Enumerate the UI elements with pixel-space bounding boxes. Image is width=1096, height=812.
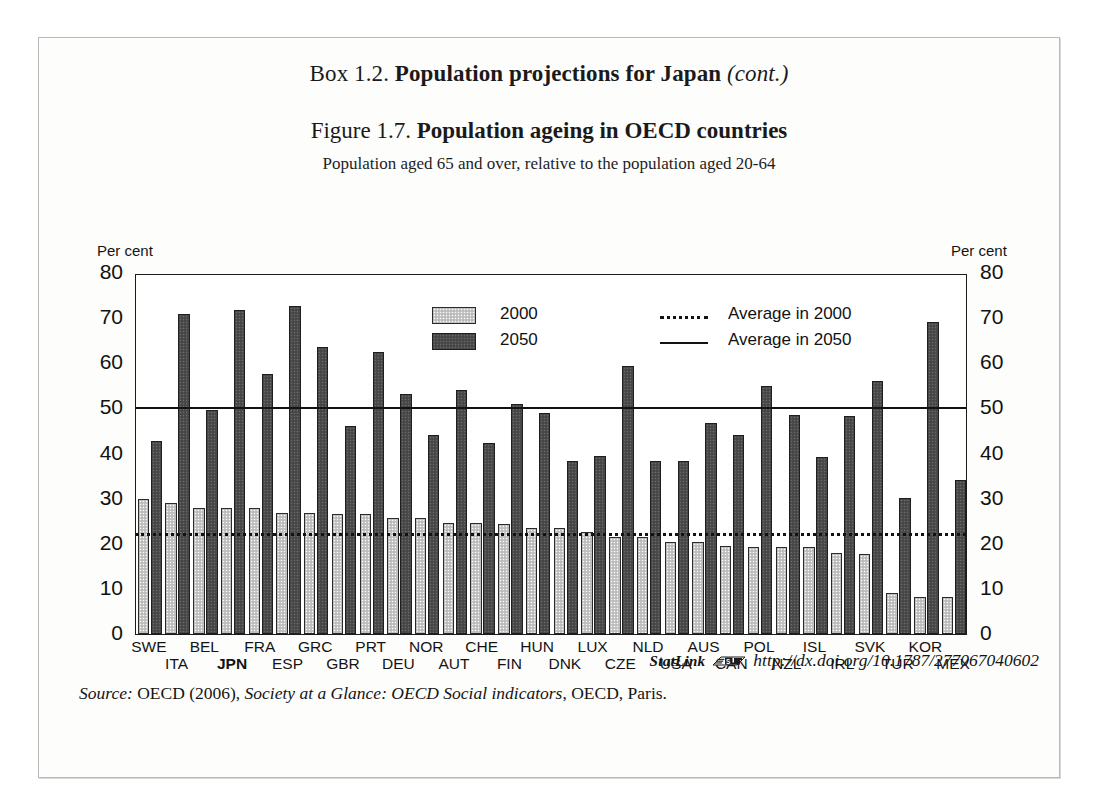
y-tick-label-right-40: 40: [980, 441, 1026, 465]
box-title-text: Population projections for Japan: [395, 61, 721, 86]
bar-2000-fin: [498, 524, 509, 634]
y-tick-label-left-80: 80: [77, 260, 123, 284]
bar-2050-bel: [206, 410, 217, 634]
bar-2050-cze: [622, 366, 633, 634]
bar-group: [885, 275, 913, 634]
bar-2000-cze: [609, 537, 620, 634]
bar-group: [691, 275, 719, 634]
bar-group: [497, 275, 525, 634]
bar-group: [191, 275, 219, 634]
y-tick-label-left-20: 20: [77, 531, 123, 555]
bar-2000-bel: [193, 508, 204, 634]
bar-2050-fin: [511, 404, 522, 634]
svg-text:S: S: [726, 657, 731, 664]
bar-2000-svk: [859, 554, 870, 634]
bar-group: [746, 275, 774, 634]
bar-2000-nzl: [776, 547, 787, 634]
source-suffix: , OECD, Paris.: [562, 683, 667, 703]
bar-group: [718, 275, 746, 634]
bar-group: [580, 275, 608, 634]
bar-2000-gbr: [332, 514, 343, 634]
figure-label: Figure 1.7.: [311, 118, 411, 143]
figure-box: Box 1.2. Population projections for Japa…: [38, 37, 1060, 778]
bar-group: [635, 275, 663, 634]
bar-group: [302, 275, 330, 634]
y-tick-label-right-30: 30: [980, 486, 1026, 510]
bar-2050-kor: [927, 322, 938, 634]
bar-2050-nld: [650, 461, 661, 634]
bar-2050-swe: [151, 441, 162, 634]
bar-2000-swe: [138, 499, 149, 634]
bar-2000-nld: [637, 537, 648, 634]
bar-group: [275, 275, 303, 634]
bar-2050-isl: [816, 457, 827, 634]
bar-2000-fra: [249, 508, 260, 634]
bar-group: [940, 275, 968, 634]
bar-2000-usa: [665, 542, 676, 634]
bar-group: [663, 275, 691, 634]
bar-2050-fra: [262, 374, 273, 634]
bar-group: [413, 275, 441, 634]
box-cont-marker: (cont.): [727, 61, 788, 86]
bar-2050-svk: [872, 381, 883, 634]
bar-2000-dnk: [554, 528, 565, 634]
bar-2050-usa: [678, 461, 689, 634]
bar-group: [552, 275, 580, 634]
bar-group: [247, 275, 275, 634]
bar-2000-can: [720, 546, 731, 634]
source-prefix: Source:: [79, 683, 133, 703]
reference-line-average-in-2000: [136, 533, 966, 536]
bar-2000-grc: [304, 513, 315, 634]
y-tick-label-right-80: 80: [980, 260, 1026, 284]
bar-2050-jpn: [234, 310, 245, 634]
bar-group: [136, 275, 164, 634]
bar-2000-ita: [165, 503, 176, 634]
source-line: Source: OECD (2006), Society at a Glance…: [79, 683, 667, 704]
y-tick-label-right-60: 60: [980, 350, 1026, 374]
bar-2050-lux: [594, 456, 605, 634]
statlink-row: StatLink S http://dx.doi.org/10.1787/277…: [39, 650, 1061, 676]
bar-2050-aus: [705, 423, 716, 634]
figure-title: Figure 1.7. Population ageing in OECD co…: [39, 118, 1059, 144]
box-title: Box 1.2. Population projections for Japa…: [39, 61, 1059, 87]
bar-2050-esp: [289, 306, 300, 634]
bar-2000-lux: [581, 532, 592, 634]
box-label: Box 1.2.: [310, 61, 389, 86]
bar-2050-prt: [373, 352, 384, 634]
bar-2000-hun: [526, 528, 537, 634]
y-axis-unit-left: Per cent: [97, 242, 153, 259]
bar-2000-isl: [803, 547, 814, 634]
bar-2000-aus: [692, 542, 703, 634]
bar-2000-pol: [748, 547, 759, 634]
bar-group: [164, 275, 192, 634]
bar-group: [358, 275, 386, 634]
statlink-label: StatLink: [650, 653, 706, 669]
y-tick-label-right-70: 70: [980, 305, 1026, 329]
bar-group: [607, 275, 635, 634]
bar-2050-che: [483, 443, 494, 634]
y-tick-label-left-40: 40: [77, 441, 123, 465]
bar-group: [219, 275, 247, 634]
bar-group: [386, 275, 414, 634]
source-publisher: OECD (2006),: [137, 683, 240, 703]
statlink-icon: S: [712, 654, 746, 669]
bar-group: [913, 275, 941, 634]
y-tick-label-right-0: 0: [980, 621, 1026, 645]
bar-2050-aut: [456, 390, 467, 634]
y-tick-label-left-50: 50: [77, 395, 123, 419]
statlink-url[interactable]: http://dx.doi.org/10.1787/277067040602: [753, 650, 1039, 670]
bar-2000-aut: [443, 523, 454, 634]
bar-group: [857, 275, 885, 634]
bar-2050-irl: [844, 416, 855, 634]
chart-container: Per cent Per cent 01020304050607080 0102…: [39, 198, 1061, 698]
source-publication: Society at a Glance: OECD Social indicat…: [245, 683, 563, 703]
figure-subtitle: Population aged 65 and over, relative to…: [39, 154, 1059, 174]
bar-group: [330, 275, 358, 634]
y-tick-label-left-10: 10: [77, 576, 123, 600]
reference-line-average-in-2050: [136, 407, 966, 409]
bar-group: [829, 275, 857, 634]
y-tick-label-left-0: 0: [77, 621, 123, 645]
bar-2050-ita: [178, 314, 189, 634]
y-axis-unit-right: Per cent: [951, 242, 1007, 259]
y-tick-label-right-10: 10: [980, 576, 1026, 600]
